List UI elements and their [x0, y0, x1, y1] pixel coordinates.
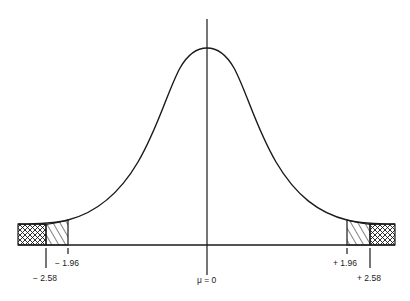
left-outer-tail-region [18, 224, 46, 245]
label-pos-2-58: + 2.58 [357, 273, 381, 283]
left-inner-tail-region [46, 220, 68, 245]
right-inner-tail-region [347, 220, 370, 245]
label-pos-1-96: + 1.96 [333, 258, 357, 268]
label-neg-2-58: − 2.58 [33, 273, 57, 283]
label-neg-1-96: − 1.96 [55, 258, 79, 268]
right-outer-tail-region [370, 224, 395, 245]
normal-distribution-diagram: − 2.58 − 1.96 + 1.96 + 2.58 μ = 0 [0, 0, 410, 301]
label-mean: μ = 0 [197, 275, 217, 285]
